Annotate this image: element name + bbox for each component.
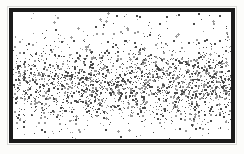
figure-root (0, 0, 244, 154)
stipple-plot-area (13, 12, 231, 139)
figure-frame (9, 8, 235, 143)
stipple-dot-field (13, 12, 231, 139)
